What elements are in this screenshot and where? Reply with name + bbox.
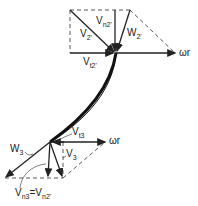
label-w3: W3 [10, 144, 23, 156]
label-vt3: Vt3 [72, 127, 85, 139]
label-omega-r-top: ωr [179, 48, 190, 58]
vn3-vector [48, 142, 50, 176]
diagram-graphics [0, 0, 198, 206]
label-v3: V3 [66, 149, 77, 161]
label-vn3-equals-vn2: Vn3=Vn2' [15, 188, 51, 200]
label-vn2: Vn2' [96, 16, 112, 28]
label-v2: V2' [80, 29, 92, 41]
label-w2: W2' [127, 28, 142, 40]
velocity-diagram: Vn2' V2' W2' Vt2' ωr Vt3 ωr W3 V3 Vn3=Vn… [0, 0, 198, 206]
label-vt2: Vt2' [83, 57, 97, 69]
label-omega-r-bottom: ωr [109, 136, 120, 146]
v3-vector [50, 142, 62, 176]
